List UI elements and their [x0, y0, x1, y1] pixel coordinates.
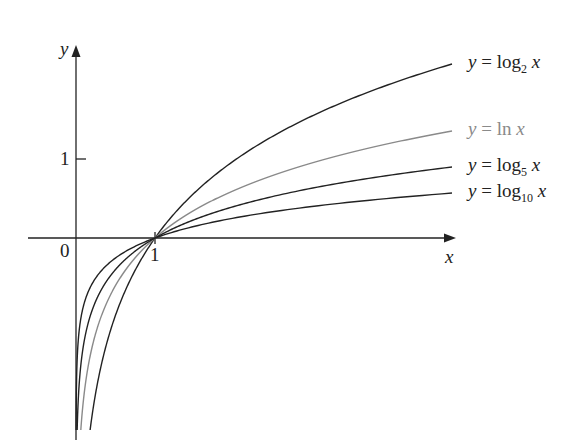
- curve-label-log-5: y = log5 x: [468, 154, 540, 180]
- x-axis-arrow-icon: [444, 234, 456, 243]
- y-axis-label: y: [60, 38, 68, 60]
- y-axis-arrow-icon: [72, 45, 81, 57]
- curve-log-e: [81, 131, 452, 430]
- origin-label: 0: [60, 240, 70, 262]
- x-axis-label: x: [445, 246, 453, 268]
- curve-log-10: [76, 193, 452, 430]
- x-tick-label-1: 1: [150, 244, 160, 266]
- curve-label-log-2: y = log2 x: [468, 51, 540, 77]
- curve-label-log-10: y = log10 x: [468, 180, 546, 206]
- curve-label-log-e: y = ln x: [468, 118, 525, 140]
- curve-log-5: [77, 167, 452, 430]
- curves-group: [76, 64, 452, 430]
- y-tick-label-1: 1: [60, 148, 70, 170]
